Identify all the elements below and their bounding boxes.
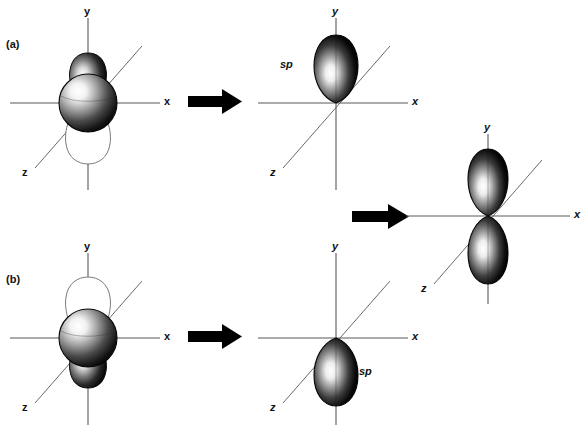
axis-label-y-combined: y <box>484 122 490 133</box>
right-arrow-icon <box>188 89 242 114</box>
arrow-b <box>186 323 246 351</box>
axis-label-z-a-product: z <box>270 167 276 178</box>
panel-combined-result: y x z <box>400 126 585 316</box>
panel-letter-a: (a) <box>6 38 19 50</box>
axis-label-y-b: y <box>84 241 90 252</box>
axis-label-z-a: z <box>22 167 28 178</box>
orbital-diagram-combined <box>400 126 585 316</box>
s-orbital-sphere <box>59 309 117 367</box>
axis-label-y-a: y <box>84 6 90 17</box>
sp-orbital-label-a: sp <box>280 58 293 70</box>
arrow-a <box>186 88 246 116</box>
panel-a-reactant: (a) y x z <box>0 8 185 198</box>
axis-label-x-combined: x <box>574 209 580 220</box>
axis-label-x-a-product: x <box>412 96 418 107</box>
panel-b-reactant: (b) y x z <box>0 243 185 433</box>
s-orbital-sphere <box>59 74 117 132</box>
panel-letter-b: (b) <box>6 273 20 285</box>
right-arrow-icon <box>188 324 242 349</box>
axis-label-z-combined: z <box>421 283 427 294</box>
figure-canvas: (a) y x z <box>0 0 585 433</box>
axis-label-x-a: x <box>164 96 170 107</box>
sp-orbital-label-b: sp <box>359 365 372 377</box>
axis-label-z-b: z <box>22 402 28 413</box>
axis-label-y-a-product: y <box>332 6 338 17</box>
axis-label-x-b-product: x <box>412 331 418 342</box>
axis-label-y-b-product: y <box>332 241 338 252</box>
axis-label-x-b: x <box>164 331 170 342</box>
axis-label-z-b-product: z <box>270 402 276 413</box>
